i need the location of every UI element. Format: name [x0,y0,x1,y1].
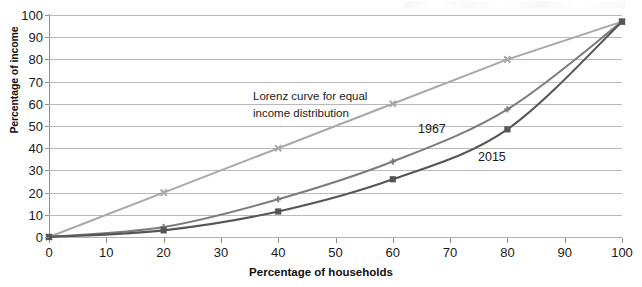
series-2015 [46,19,625,241]
y-tick-mark-30 [45,170,49,171]
data-point-marker [619,19,625,25]
y-tick-mark-100 [45,15,49,16]
y-tick-mark-90 [45,37,49,38]
annotation-series-2015: 2015 [478,150,506,164]
series-lorenz-curve-for-equal-income-distribution [46,19,625,241]
marker-square [161,227,167,233]
data-point-marker [504,126,510,132]
marker-square [619,19,625,25]
marker-square [275,208,281,214]
y-tick-mark-40 [45,148,49,149]
y-tick-mark-70 [45,82,49,83]
y-tick-mark-80 [45,59,49,60]
y-tick-mark-0 [45,237,49,238]
lorenz-curve-chart: Percentage of income 0102030405060708090… [0,0,642,287]
annotation-equality-line: Lorenz curve for equal income distributi… [253,88,367,121]
series-1967 [46,19,625,241]
data-point-marker [161,227,167,233]
marker-square [390,176,396,182]
y-tick-mark-50 [45,126,49,127]
data-point-marker [275,196,281,202]
y-tick-mark-20 [45,193,49,194]
y-tick-mark-60 [45,104,49,105]
annotation-equality-line-1: Lorenz curve for equal [253,88,367,105]
data-point-marker [390,158,396,164]
series-lines [0,0,642,287]
annotation-series-1967: 1967 [418,122,446,136]
data-point-marker [275,208,281,214]
x-axis-title: Percentage of households [0,266,642,278]
data-point-marker [390,176,396,182]
annotation-equality-line-2: income distribution [253,105,367,122]
series-path [49,22,622,237]
marker-square [504,126,510,132]
y-tick-mark-10 [45,215,49,216]
